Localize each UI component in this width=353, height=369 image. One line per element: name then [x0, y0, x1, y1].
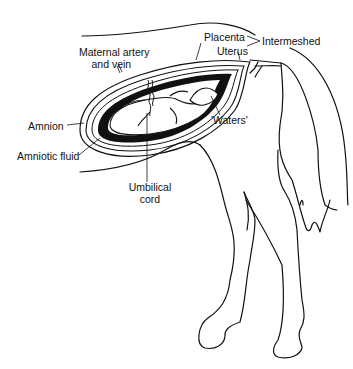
horse-rump-line [290, 48, 348, 205]
label-maternal-artery-line2: and vein [73, 58, 150, 70]
leader-amniotic-fluid [79, 138, 100, 155]
horse-tail-inner [279, 63, 330, 232]
leader-placenta [196, 43, 201, 60]
vulva-mark-1 [250, 62, 258, 73]
horse-hind-leg-left [199, 145, 255, 348]
horse-outline-drawing [0, 0, 353, 369]
label-umbilical-cord-line2: cord [124, 193, 176, 205]
leader-intermeshed-top [247, 36, 260, 41]
foetus [110, 88, 218, 135]
vulva-mark-2 [255, 66, 262, 77]
pregnancy-diagram: Maternal artery and vein Placenta Uterus… [0, 0, 353, 369]
label-umbilical-cord-line1: Umbilical [124, 181, 176, 193]
horse-tail-tip [300, 200, 303, 205]
label-maternal-artery: Maternal artery and vein [79, 46, 150, 70]
label-uterus: Uterus [217, 45, 248, 57]
label-amniotic-fluid: Amniotic fluid [17, 150, 79, 162]
leader-amnion [67, 123, 84, 125]
horse-hind-leg-right [246, 150, 304, 358]
label-intermeshed: Intermeshed [262, 35, 320, 47]
label-maternal-artery-line1: Maternal artery [79, 46, 150, 58]
foetus-foreleg [170, 91, 188, 96]
tail-root-line [250, 60, 281, 63]
horse-tail-outer [281, 63, 337, 210]
horse-hind-leg-left-inner [244, 192, 248, 230]
label-placenta: Placenta [204, 31, 245, 43]
label-amnion: Amnion [28, 120, 64, 132]
label-waters: 'Waters' [211, 114, 248, 126]
leader-intermeshed-bottom [247, 41, 260, 46]
label-umbilical-cord: Umbilical cord [124, 181, 176, 205]
